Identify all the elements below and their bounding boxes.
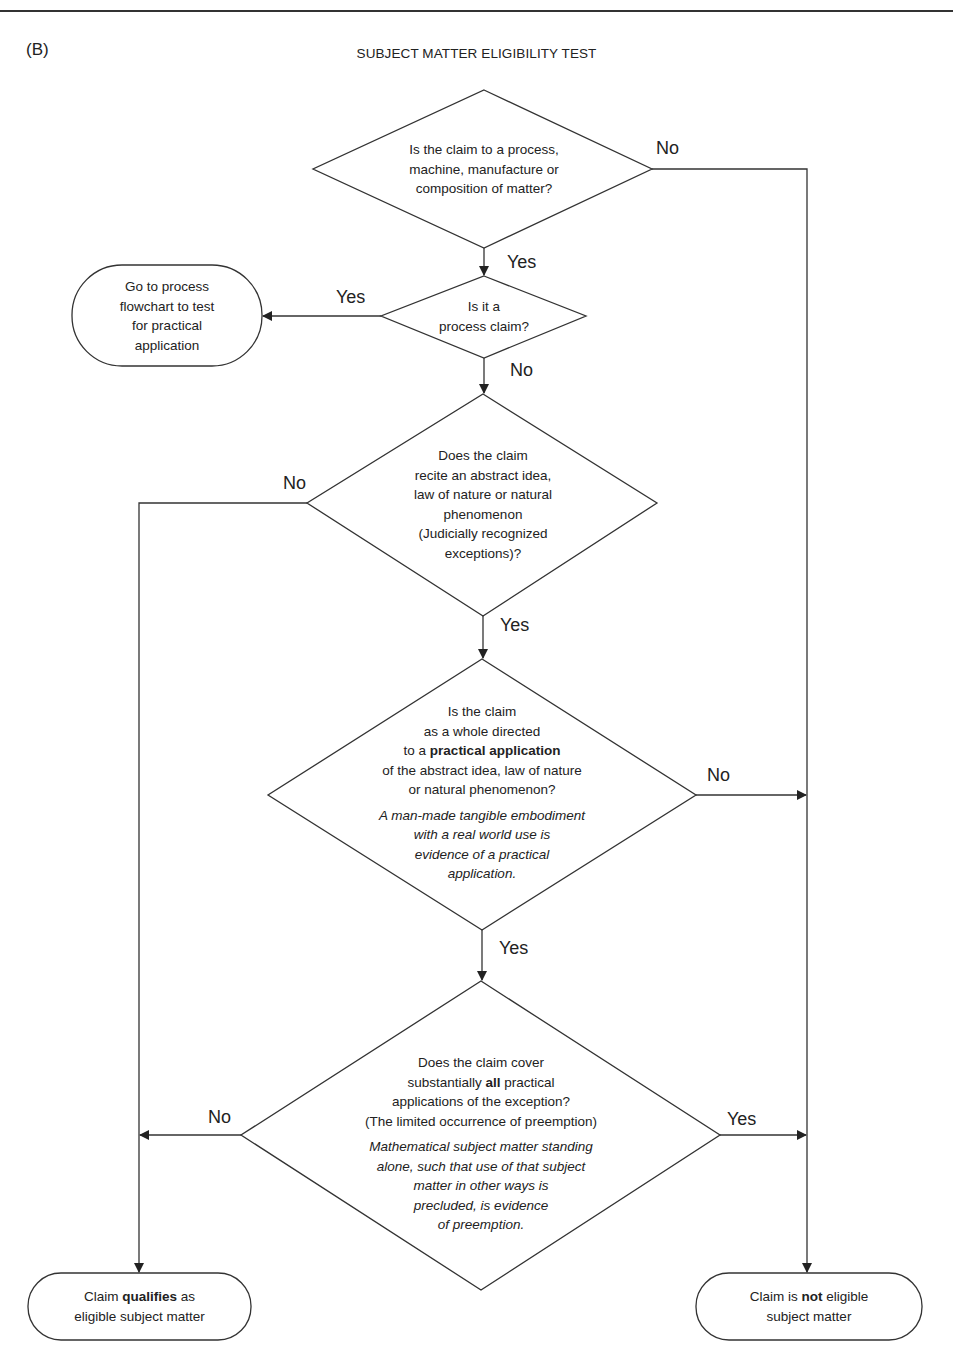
q5-note-line: matter in other ways is [331, 1176, 631, 1196]
q4-emphasis: practical application [430, 743, 561, 758]
edge-label-q1-yes: Yes [507, 252, 536, 273]
q5-note-line: precluded, is evidence [331, 1196, 631, 1216]
edge-label-q5-yes: Yes [727, 1109, 756, 1130]
eligible-emphasis: qualifies [122, 1289, 177, 1304]
not-eligible-line: subject matter [696, 1307, 922, 1327]
terminal-process-flowchart: Go to process flowchart to test for prac… [82, 277, 252, 355]
q5-note-line: of preemption. [331, 1215, 631, 1235]
q1-line: Is the claim to a process, [364, 140, 604, 160]
q3-line: Does the claim [373, 446, 593, 466]
q4-line: Is the claim [337, 702, 627, 722]
q5-note-line: alone, such that use of that subject [331, 1157, 631, 1177]
edge-label-q2-no: No [510, 360, 533, 381]
process-flowchart-line: Go to process [82, 277, 252, 297]
q5-note-line: Mathematical subject matter standing [331, 1137, 631, 1157]
decision-q4: Is the claim as a whole directed to a pr… [337, 702, 627, 884]
edge-label-q1-no: No [656, 138, 679, 159]
edge-label-q5-no: No [208, 1107, 231, 1128]
decision-q2: Is it a process claim? [404, 297, 564, 336]
q3-line: exceptions)? [373, 544, 593, 564]
decision-q5: Does the claim cover substantially all p… [331, 1053, 631, 1235]
q5-line: substantially all practical [331, 1073, 631, 1093]
decision-q3: Does the claim recite an abstract idea, … [373, 446, 593, 563]
edge-label-q4-no: No [707, 765, 730, 786]
process-flowchart-line: application [82, 336, 252, 356]
q2-line: process claim? [404, 317, 564, 337]
q3-line: phenomenon [373, 505, 593, 525]
edge-label-q2-yes: Yes [336, 287, 365, 308]
q5-line: applications of the exception? [331, 1092, 631, 1112]
q4-note-line: evidence of a practical [337, 845, 627, 865]
q4-line: of the abstract idea, law of nature [337, 761, 627, 781]
q3-line: (Judicially recognized [373, 524, 593, 544]
terminal-eligible: Claim qualifies as eligible subject matt… [28, 1287, 251, 1326]
q4-note-line: with a real world use is [337, 825, 627, 845]
q4-note-line: application. [337, 864, 627, 884]
q4-note-line: A man-made tangible embodiment [337, 806, 627, 826]
q4-line: as a whole directed [337, 722, 627, 742]
edge-label-q4-yes: Yes [499, 938, 528, 959]
q5-line: Does the claim cover [331, 1053, 631, 1073]
process-flowchart-line: for practical [82, 316, 252, 336]
q2-line: Is it a [404, 297, 564, 317]
q5-emphasis: all [486, 1075, 501, 1090]
q4-line: or natural phenomenon? [337, 780, 627, 800]
q1-line: composition of matter? [364, 179, 604, 199]
q5-line: (The limited occurrence of preemption) [331, 1112, 631, 1132]
eligible-line: eligible subject matter [28, 1307, 251, 1327]
edge-label-q3-no: No [283, 473, 306, 494]
q4-line: to a practical application [337, 741, 627, 761]
not-eligible-emphasis: not [801, 1289, 822, 1304]
decision-q1: Is the claim to a process, machine, manu… [364, 140, 604, 199]
q3-line: recite an abstract idea, [373, 466, 593, 486]
q1-line: machine, manufacture or [364, 160, 604, 180]
not-eligible-line: Claim is not eligible [696, 1287, 922, 1307]
q3-line: law of nature or natural [373, 485, 593, 505]
process-flowchart-line: flowchart to test [82, 297, 252, 317]
edge-label-q3-yes: Yes [500, 615, 529, 636]
eligible-line: Claim qualifies as [28, 1287, 251, 1307]
terminal-not-eligible: Claim is not eligible subject matter [696, 1287, 922, 1326]
